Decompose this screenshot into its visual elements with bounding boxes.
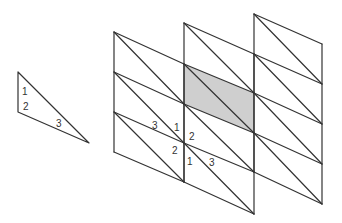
angle-label: 1	[187, 156, 193, 167]
panel-2-diagonal	[254, 133, 322, 204]
panel-2-row-line	[254, 54, 322, 84]
angle-label: 3	[209, 157, 215, 168]
panel-2-diagonal	[254, 93, 322, 164]
angle-label: 1	[174, 122, 180, 133]
panel-2-row-line	[254, 133, 322, 164]
panel-2-diagonal	[254, 54, 322, 124]
triangle-outline	[18, 72, 89, 143]
panel-2-row-line	[254, 172, 322, 204]
panel-0-diagonal	[114, 32, 184, 104]
panel-2-row-line	[254, 14, 322, 44]
angle-label: 3	[152, 120, 158, 131]
tiling-diagram: 123312213	[0, 0, 342, 223]
panel-0-row-line	[114, 152, 184, 182]
panel-1-row-line	[184, 182, 254, 214]
panel-0-row-line	[114, 32, 184, 64]
small-triangle	[18, 72, 89, 143]
panel-2-diagonal	[254, 14, 322, 84]
panel-2-row-line	[254, 93, 322, 124]
angle-label: 2	[189, 131, 195, 142]
angle-label: 3	[56, 118, 62, 129]
panel-1-diagonal	[184, 143, 254, 214]
panel-1-row-line	[184, 23, 254, 54]
angle-label: 1	[22, 86, 28, 97]
panel-1-row-line	[184, 143, 254, 172]
angle-label: 2	[172, 145, 178, 156]
panel-0-row-line	[114, 72, 184, 104]
angle-label: 2	[23, 101, 29, 112]
